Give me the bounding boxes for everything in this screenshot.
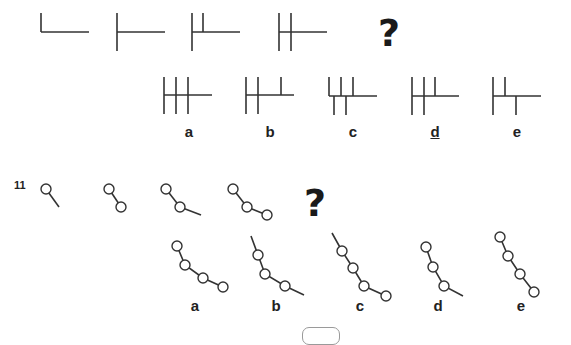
p10-sequence-fig-2 [117, 13, 165, 51]
p10-option-a-figure[interactable] [164, 77, 212, 114]
p10-option-e-label[interactable]: e [513, 124, 521, 139]
p11-option-b-figure[interactable] [251, 236, 304, 295]
p10-option-d-figure[interactable] [412, 77, 459, 115]
p11-option-e-label[interactable]: e [517, 298, 525, 313]
p10-question-mark: ? [378, 14, 400, 52]
p10-option-b-label[interactable]: b [265, 124, 274, 139]
p10-option-c-figure[interactable] [329, 77, 377, 115]
p10-sequence-fig-3 [192, 13, 240, 51]
p10-option-c-label[interactable]: c [349, 124, 357, 139]
p10-sequence-fig-1 [41, 13, 89, 32]
p11-option-d-label[interactable]: d [433, 298, 442, 313]
p11-option-c-label[interactable]: c [356, 298, 364, 313]
p11-sequence-fig-2 [104, 184, 126, 212]
p10-option-a-label[interactable]: a [185, 124, 193, 139]
p11-option-e-figure[interactable] [495, 232, 539, 297]
p11-option-b-label[interactable]: b [271, 298, 280, 313]
p11-question-number: 11 [14, 179, 26, 191]
bottom-rounded-box [302, 327, 340, 345]
p11-option-a-label[interactable]: a [191, 298, 199, 313]
p10-option-d-label[interactable]: d [430, 124, 439, 139]
p11-sequence-fig-1 [41, 184, 59, 207]
p11-option-d-figure[interactable] [421, 242, 463, 296]
p10-option-e-figure[interactable] [493, 77, 541, 115]
p11-sequence-fig-4 [228, 184, 272, 220]
p10-option-b-figure[interactable] [246, 77, 294, 114]
p11-option-a-figure[interactable] [172, 241, 228, 292]
p11-question-mark: ? [304, 184, 326, 222]
p11-sequence-fig-3 [161, 184, 201, 215]
p11-option-c-figure[interactable] [332, 233, 391, 301]
p10-sequence-fig-4 [279, 13, 327, 51]
